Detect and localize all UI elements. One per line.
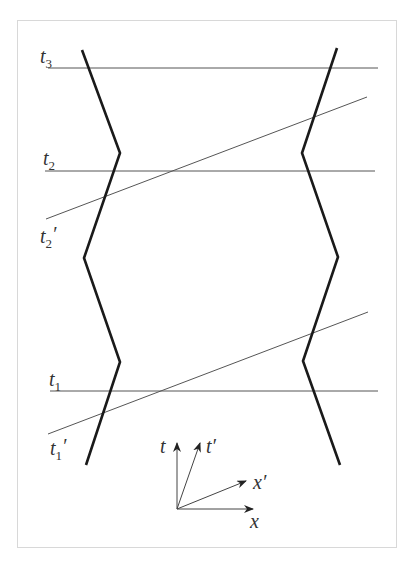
t-prime-axis-label: t′ — [206, 435, 217, 457]
figure-frame — [18, 21, 397, 548]
t3-label: t3 — [40, 45, 52, 71]
t1-prime-line — [48, 312, 368, 434]
right-worldline — [302, 48, 340, 465]
t1-prime-label: t1′ — [50, 435, 67, 463]
t2-label: t2 — [43, 147, 55, 173]
t1-label: t1 — [49, 368, 61, 394]
x-axis-label: x — [249, 510, 259, 532]
spacetime-diagram: t3 t2 t2′ t1 t1′ t t′ x′ x — [0, 0, 420, 566]
t-axis-label: t — [160, 435, 166, 457]
left-worldline — [82, 50, 120, 465]
x-prime-axis-label: x′ — [252, 471, 267, 493]
t2-prime-label: t2′ — [40, 223, 57, 251]
t-prime-axis — [177, 443, 200, 509]
x-prime-axis — [177, 481, 246, 509]
coordinate-axes: t t′ x′ x — [160, 435, 267, 532]
